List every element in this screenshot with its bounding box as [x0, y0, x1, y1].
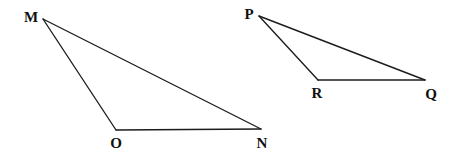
geometry-figure: M O N P R Q	[0, 0, 455, 164]
vertex-label-m: M	[24, 9, 38, 25]
vertex-label-n: N	[257, 135, 268, 151]
vertex-label-p: P	[244, 6, 253, 22]
vertex-label-q: Q	[425, 86, 437, 102]
figure-background	[0, 0, 455, 164]
vertex-label-o: O	[110, 135, 122, 151]
vertex-label-r: R	[312, 85, 323, 101]
